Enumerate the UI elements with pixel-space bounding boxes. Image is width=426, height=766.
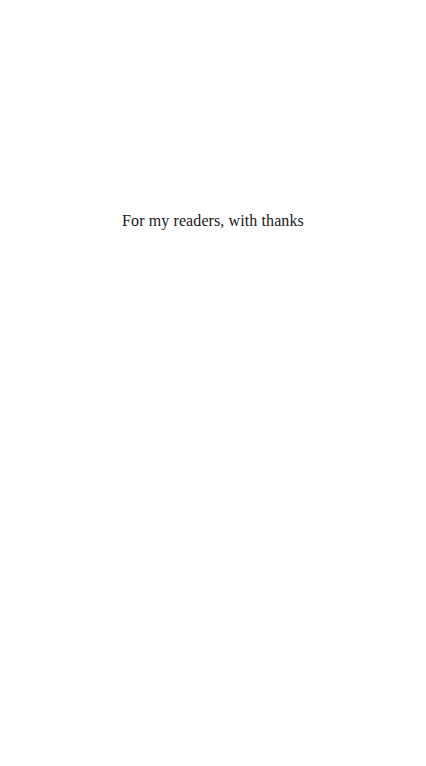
dedication-text: For my readers, with thanks — [0, 211, 426, 231]
book-page: For my readers, with thanks — [0, 0, 426, 766]
